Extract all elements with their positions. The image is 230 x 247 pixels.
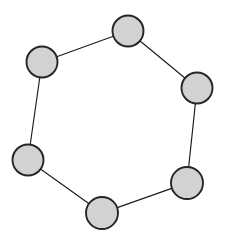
graph-edge — [40, 169, 89, 204]
graph-figure — [0, 0, 230, 247]
graph-node — [182, 73, 213, 104]
graph-edge — [139, 40, 185, 78]
graph-edge — [117, 188, 173, 208]
graph-node — [27, 47, 58, 78]
node-layer — [13, 16, 213, 230]
graph-node — [113, 16, 144, 47]
graph-node — [86, 197, 118, 229]
graph-node — [13, 145, 44, 176]
graph-canvas — [0, 0, 230, 247]
graph-edge — [30, 77, 40, 146]
graph-edge — [189, 103, 196, 168]
graph-edge — [56, 36, 114, 57]
graph-node — [171, 167, 203, 199]
